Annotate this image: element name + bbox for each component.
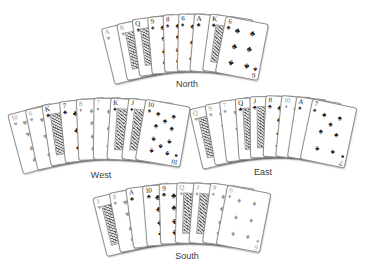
card-index-br: 7♠ (339, 153, 345, 165)
suit-pip: ♣ (246, 45, 253, 54)
suit-icon: ♠ (147, 107, 151, 113)
suit-pip: ♦ (248, 216, 254, 225)
card-index-tl: 9♣ (162, 186, 166, 198)
suit-icon: ♣ (253, 66, 258, 73)
suit-pip: ♦ (236, 197, 242, 206)
card-index-tl: A♥ (104, 29, 111, 42)
card-index-tl: 7♣ (62, 103, 67, 115)
card-index-tl: 10♥ (11, 114, 20, 127)
suit-icon: ♦ (255, 238, 259, 244)
suit-pip: ♣ (249, 30, 256, 39)
suit-pip: ♠ (153, 122, 159, 131)
card-index-br: 10♠ (172, 153, 180, 166)
suit-icon: ♣ (196, 21, 200, 27)
suit-icon: ♥ (113, 200, 118, 207)
card-index-tl: A♠ (297, 99, 303, 112)
card-index-tl: 10♠ (146, 101, 154, 114)
card-index-tl: J♥ (96, 198, 102, 211)
card-index-tl: 8♥ (112, 194, 118, 206)
suit-icon: ♠ (129, 106, 133, 112)
suit-pip: ♠ (164, 149, 170, 158)
suit-icon: ♥ (208, 111, 213, 118)
card-index-tl: 7♥ (222, 102, 227, 114)
suit-pip: ♠ (321, 111, 327, 120)
suit-icon: ♦ (195, 190, 199, 196)
suit-icon: ♣ (147, 193, 151, 199)
card-index-br: 6♦ (254, 238, 259, 250)
suit-icon: ♣ (162, 192, 166, 198)
suit-pip: ♦ (233, 213, 239, 222)
suit-icon: ♥ (106, 35, 111, 42)
suit-icon: ♠ (166, 23, 169, 29)
suit-pip: ♦ (230, 229, 236, 238)
suit-icon: ♥ (13, 120, 18, 127)
card-index-tl: J♦ (195, 184, 199, 196)
suit-icon: ♦ (284, 104, 288, 110)
suit-pip: ♣ (228, 58, 235, 67)
suit-pip: ♠ (162, 117, 168, 126)
suit-pip: ♣ (234, 27, 241, 36)
suit-pip: ♠ (149, 147, 155, 156)
hand-label-west: West (91, 170, 111, 180)
suit-icon: ♣ (226, 24, 231, 31)
suit-icon: ♣ (268, 103, 272, 109)
suit-icon: ♣ (130, 196, 135, 202)
suit-pip: ♠ (337, 114, 343, 123)
suit-pip: ♠ (333, 131, 339, 140)
suit-pip: ♠ (158, 142, 164, 151)
suit-pip: ♠ (169, 124, 175, 133)
suit-pip: ♣ (231, 42, 238, 51)
suit-icon: ♠ (151, 24, 155, 30)
card-index-tl: 9♠ (150, 18, 154, 30)
suit-pip: ♣ (243, 61, 250, 70)
card-index-tl: 7♦ (96, 100, 99, 112)
card-index-tl: 6♣ (226, 18, 232, 31)
card-index-tl: 8♣ (268, 97, 272, 109)
card-index-tl: 8♦ (79, 101, 83, 113)
suit-icon: ♥ (29, 116, 34, 123)
card-index-tl: 9♦ (211, 185, 216, 197)
suit-pip: ♠ (151, 135, 157, 144)
suit-icon: ♦ (96, 106, 99, 112)
suit-icon: ♠ (174, 153, 178, 159)
card-index-tl: 7♠ (312, 101, 318, 113)
card-index-tl: 8♠ (166, 17, 170, 29)
card-index-tl: A♣ (129, 190, 135, 203)
suit-icon: ♣ (62, 109, 67, 115)
card-index-tl: 10♦ (283, 98, 290, 111)
card-index-tl: 6♦ (227, 187, 232, 199)
suit-icon: ♦ (179, 191, 182, 197)
suit-pip: ♠ (327, 120, 333, 129)
suit-pip: ♠ (330, 147, 336, 156)
suit-icon: ♠ (340, 153, 344, 160)
card-index-tl: 6♥ (27, 110, 33, 122)
suit-icon: ♦ (227, 193, 231, 199)
card-10s: 10♠10♠♠♠♠♠♠♠♠♠♠♠ (135, 99, 191, 168)
hand-label-south: South (175, 251, 199, 261)
hand-label-north: North (176, 79, 198, 89)
card-index-br: 6♣ (252, 66, 258, 79)
suit-icon: ♦ (79, 107, 82, 113)
suit-pip: ♠ (171, 113, 177, 122)
suit-pip: ♠ (155, 110, 161, 119)
card-index-tl: A♣ (196, 15, 202, 27)
suit-icon: ♦ (211, 191, 215, 197)
card-index-tl: 6♠ (181, 16, 185, 28)
card-6c: 6♣6♣♣♣♣♣♣♣ (215, 16, 269, 81)
card-deal-figure: A♥A♥♥K♥K♥Q♠Q♠9♠9♠♠♠♠♠♠♠♠♠♠8♠8♠♠♠♠♠♠♠♠♠6♠… (0, 0, 366, 267)
suit-pip: ♦ (251, 200, 257, 209)
suit-icon: ♠ (181, 22, 184, 28)
card-index-tl: 9♥ (207, 105, 213, 117)
suit-pip: ♠ (318, 127, 324, 136)
suit-icon: ♠ (298, 105, 302, 111)
suit-pip: ♠ (167, 137, 173, 146)
suit-pip: ♠ (314, 144, 320, 153)
suit-icon: ♠ (312, 107, 316, 114)
card-index-tl: 10♣ (145, 187, 152, 199)
suit-pip: ♦ (245, 232, 251, 241)
hand-label-east: East (254, 167, 272, 177)
suit-icon: ♥ (223, 108, 227, 114)
